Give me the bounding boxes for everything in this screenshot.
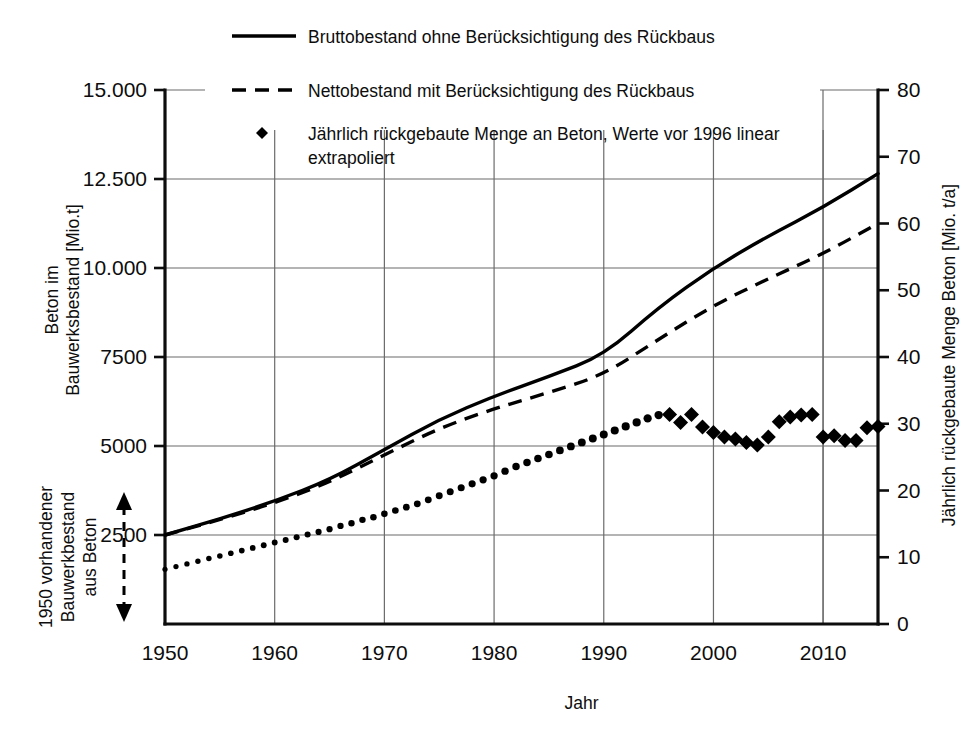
data-marker-rueckbau-extrapolated — [250, 545, 256, 551]
y-tick-label-left: 15.000 — [83, 78, 147, 101]
data-marker-rueckbau-extrapolated — [633, 418, 641, 426]
annotation-arrowhead-up — [116, 492, 132, 510]
data-marker-rueckbau — [684, 407, 699, 422]
x-tick-label: 1980 — [471, 641, 518, 664]
legend-label-rueckbau: Jährlich rückgebaute Menge an Beton, Wer… — [308, 124, 780, 168]
y-tick-label-right: 0 — [897, 612, 909, 635]
series-line-bruttobestand — [165, 174, 878, 535]
data-marker-rueckbau-extrapolated — [479, 476, 486, 483]
data-marker-rueckbau-extrapolated — [294, 534, 300, 540]
y-tick-label-right: 40 — [897, 345, 920, 368]
data-marker-rueckbau-extrapolated — [523, 459, 531, 467]
data-marker-rueckbau-extrapolated — [589, 434, 597, 442]
legend-label-bruttobestand: Bruttobestand ohne Berücksichtigung des … — [308, 27, 715, 47]
legend-swatch-diamond-icon — [256, 127, 268, 139]
data-marker-rueckbau — [673, 415, 688, 430]
data-marker-rueckbau — [739, 435, 754, 450]
data-marker-rueckbau-extrapolated — [578, 439, 586, 447]
data-marker-rueckbau-extrapolated — [512, 463, 519, 470]
x-tick-label: 1970 — [361, 641, 408, 664]
y-axis-title-left: Beton imBauwerksbestand [Mio.t] — [42, 204, 83, 396]
data-marker-rueckbau-extrapolated — [611, 426, 619, 434]
data-marker-rueckbau-extrapolated — [228, 550, 234, 556]
data-marker-rueckbau-extrapolated — [403, 504, 410, 511]
data-marker-rueckbau-extrapolated — [556, 447, 564, 455]
annotation-arrowhead-down — [116, 604, 132, 622]
data-marker-rueckbau-extrapolated — [644, 414, 652, 422]
data-marker-rueckbau-extrapolated — [501, 467, 508, 474]
x-axis-title: Jahr — [564, 693, 598, 713]
data-marker-rueckbau-extrapolated — [315, 529, 321, 535]
data-marker-rueckbau-extrapolated — [337, 523, 343, 529]
data-marker-rueckbau-extrapolated — [490, 472, 497, 479]
data-marker-rueckbau-extrapolated — [239, 548, 245, 554]
data-marker-rueckbau-extrapolated — [425, 496, 432, 503]
data-marker-rueckbau-extrapolated — [622, 422, 630, 430]
data-marker-rueckbau-extrapolated — [305, 531, 311, 537]
data-marker-rueckbau-extrapolated — [654, 411, 662, 419]
data-marker-rueckbau — [750, 438, 765, 453]
data-marker-rueckbau-extrapolated — [206, 556, 211, 561]
x-tick-label: 1950 — [142, 641, 189, 664]
data-marker-rueckbau-extrapolated — [173, 564, 178, 569]
data-marker-rueckbau-extrapolated — [359, 517, 365, 523]
y-tick-label-right: 60 — [897, 212, 920, 235]
data-marker-rueckbau-extrapolated — [326, 526, 332, 532]
data-marker-rueckbau — [761, 430, 776, 445]
data-marker-rueckbau-extrapolated — [348, 520, 354, 526]
y-tick-label-right: 10 — [897, 545, 920, 568]
annotation-label-bestand-1950: 1950 vorhandenerBauwerkbestandaus Beton — [36, 486, 100, 628]
legend-label-nettobestand: Nettobestand mit Berücksichtigung des Rü… — [308, 81, 694, 101]
data-marker-rueckbau-extrapolated — [545, 451, 553, 459]
y-tick-label-right: 20 — [897, 479, 920, 502]
x-tick-label: 1990 — [580, 641, 627, 664]
x-tick-label: 2000 — [690, 641, 737, 664]
y-tick-label-right: 30 — [897, 412, 920, 435]
y-tick-label-right: 80 — [897, 78, 920, 101]
x-tick-label: 2010 — [800, 641, 847, 664]
data-marker-rueckbau-extrapolated — [392, 507, 399, 514]
y-axis-title-right: Jährlich rückgebaute Menge Beton [Mio. t… — [939, 184, 959, 526]
data-marker-rueckbau-extrapolated — [381, 511, 388, 518]
data-marker-rueckbau-extrapolated — [195, 559, 200, 564]
data-marker-rueckbau — [871, 419, 886, 434]
y-tick-label-right: 70 — [897, 145, 920, 168]
data-marker-rueckbau-extrapolated — [370, 514, 377, 521]
data-marker-rueckbau-extrapolated — [567, 443, 575, 451]
data-marker-rueckbau-extrapolated — [217, 553, 223, 559]
data-marker-rueckbau-extrapolated — [261, 542, 267, 548]
data-marker-rueckbau — [805, 407, 820, 422]
x-tick-label: 1960 — [251, 641, 298, 664]
data-marker-rueckbau — [662, 407, 677, 422]
y-tick-label-left: 10.000 — [83, 256, 147, 279]
data-marker-rueckbau-extrapolated — [283, 537, 289, 543]
y-tick-label-left: 7500 — [100, 345, 147, 368]
data-marker-rueckbau — [728, 432, 743, 447]
y-tick-label-right: 50 — [897, 278, 920, 301]
series-line-nettobestand — [165, 224, 878, 536]
data-marker-rueckbau-extrapolated — [162, 567, 167, 572]
data-marker-rueckbau-extrapolated — [447, 488, 454, 495]
chart-canvas: 25005000750010.00012.50015.0000102030405… — [0, 0, 978, 741]
data-marker-rueckbau-extrapolated — [272, 540, 278, 546]
data-marker-rueckbau-extrapolated — [458, 484, 465, 491]
chart-figure: 25005000750010.00012.50015.0000102030405… — [0, 0, 978, 741]
data-marker-rueckbau-extrapolated — [184, 561, 189, 566]
data-marker-rueckbau-extrapolated — [534, 455, 542, 463]
y-tick-label-left: 12.500 — [83, 167, 147, 190]
y-tick-label-left: 5000 — [100, 434, 147, 457]
data-marker-rueckbau-extrapolated — [469, 480, 476, 487]
data-marker-rueckbau-extrapolated — [414, 500, 421, 507]
data-marker-rueckbau-extrapolated — [600, 430, 608, 438]
data-marker-rueckbau-extrapolated — [436, 492, 443, 499]
